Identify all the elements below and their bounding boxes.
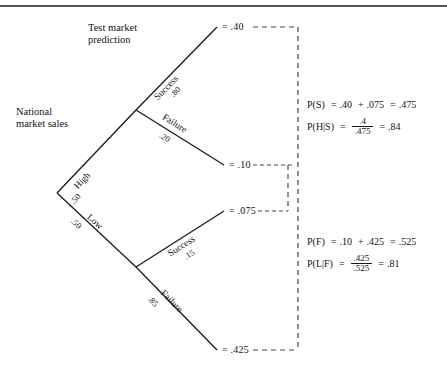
formula-pf-result: .525 xyxy=(399,236,417,247)
formula-phs-label: P(H|S) xyxy=(307,121,334,132)
formula-plf-denominator: .525 xyxy=(351,264,373,273)
leaf-value-high-success: = .40 xyxy=(222,21,244,33)
formula-ps-term-2: .075 xyxy=(367,99,385,110)
formula-pf-label: P(F) xyxy=(307,236,325,247)
formula-block-failure: P(F) = .10 + .425 = .525 P(L|F) = .425 .… xyxy=(307,236,419,274)
national-market-sales-line1: National xyxy=(16,106,68,118)
national-market-sales-line2: market sales xyxy=(16,118,68,130)
test-market-prediction-label: Test market prediction xyxy=(88,22,137,47)
test-market-prediction-line2: prediction xyxy=(88,34,137,46)
formula-pf-equals-1: = xyxy=(331,236,337,247)
formula-phs-equals-2: = xyxy=(379,121,385,132)
formula-pf-term-2: .425 xyxy=(367,236,385,247)
formula-phs-fraction: .4 .475 xyxy=(352,117,374,137)
formula-ps: P(S) = .40 + .075 = .475 xyxy=(307,99,419,110)
national-market-sales-label: National market sales xyxy=(16,106,68,131)
test-market-prediction-line1: Test market xyxy=(88,22,137,34)
formula-pf-plus: + xyxy=(358,236,364,247)
edge-root-high xyxy=(57,110,136,193)
formula-phs: P(H|S) = .4 .475 = .84 xyxy=(307,117,419,137)
decision-tree-canvas xyxy=(0,0,447,368)
formula-plf-numerator: .425 xyxy=(351,254,373,263)
formula-pf-equals-2: = xyxy=(390,236,396,247)
formula-ps-label: P(S) xyxy=(307,99,325,110)
formula-ps-equals-1: = xyxy=(331,99,337,110)
formula-phs-denominator: .475 xyxy=(352,127,374,136)
formula-phs-result: .84 xyxy=(388,121,401,132)
formula-plf-equals-2: = xyxy=(378,258,384,269)
formula-plf-label: P(L|F) xyxy=(307,258,333,269)
leaf-value-low-failure: = .425 xyxy=(222,344,249,356)
edge-high-failure xyxy=(136,110,224,165)
formula-ps-equals-2: = xyxy=(390,99,396,110)
figure-container: Test market prediction National market s… xyxy=(0,0,447,368)
formula-pf-term-1: .10 xyxy=(339,236,352,247)
edge-low-success xyxy=(136,211,224,267)
formula-ps-plus: + xyxy=(358,99,364,110)
formula-plf: P(L|F) = .425 .525 = .81 xyxy=(307,254,419,274)
formula-ps-term-1: .40 xyxy=(339,99,352,110)
formula-plf-result: .81 xyxy=(387,258,400,269)
formula-phs-numerator: .4 xyxy=(356,117,369,126)
formula-plf-fraction: .425 .525 xyxy=(351,254,373,274)
leaf-value-high-failure: = .10 xyxy=(229,159,251,171)
formula-phs-equals-1: = xyxy=(340,121,346,132)
formula-ps-result: .475 xyxy=(399,99,417,110)
leaf-value-low-success: = .075 xyxy=(229,205,256,217)
formula-plf-equals-1: = xyxy=(339,258,345,269)
formula-pf: P(F) = .10 + .425 = .525 xyxy=(307,236,419,247)
formula-block-success: P(S) = .40 + .075 = .475 P(H|S) = .4 .47… xyxy=(307,99,419,137)
